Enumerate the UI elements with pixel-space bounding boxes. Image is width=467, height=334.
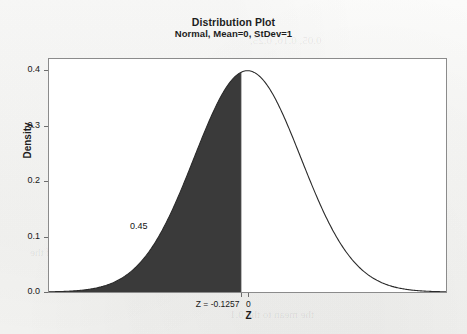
plot-area: [48, 58, 447, 293]
y-tick-label: 0.4: [6, 64, 40, 74]
chart-title-block: Distribution Plot Normal, Mean=0, StDev=…: [0, 16, 467, 40]
y-tick-label: 0.1: [6, 231, 40, 241]
y-tick-label: 0.0: [6, 286, 40, 296]
x-tick-mark: [241, 293, 242, 297]
y-axis-label: Density: [22, 106, 33, 176]
chart-screenshot: 0.05, 0.16, 0.25, the mean to the 0.1 is…: [0, 0, 467, 334]
chart-title: Distribution Plot: [0, 16, 467, 28]
x-tick-mark: [248, 293, 249, 297]
normal-curve-path: [49, 71, 446, 292]
x-axis-label: Z: [246, 310, 252, 321]
shaded-area-path: [49, 72, 241, 292]
x-tick-label: Z = -0.1257: [196, 299, 240, 309]
y-tick-label: 0.2: [6, 175, 40, 185]
shaded-area-probability-label: 0.45: [130, 221, 148, 231]
ghost-text-line-2: the mean to the 0.1: [230, 308, 314, 320]
distribution-curve-svg: [49, 59, 446, 292]
chart-subtitle: Normal, Mean=0, StDev=1: [0, 28, 467, 39]
x-tick-label: 0: [246, 299, 251, 309]
